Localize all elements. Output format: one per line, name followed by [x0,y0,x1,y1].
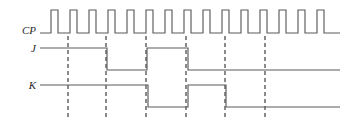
waveform-group [40,10,340,107]
waveform-k [40,85,340,107]
signal-label-k: K [28,79,37,91]
timing-diagram: CPJK [0,0,354,124]
signal-label-j: J [31,42,37,54]
waveform-cp [40,10,340,33]
timing-diagram-canvas: CPJK [0,0,354,124]
waveform-j [40,48,340,70]
signal-label-cp: CP [22,24,36,36]
signal-label-group: CPJK [22,24,37,91]
